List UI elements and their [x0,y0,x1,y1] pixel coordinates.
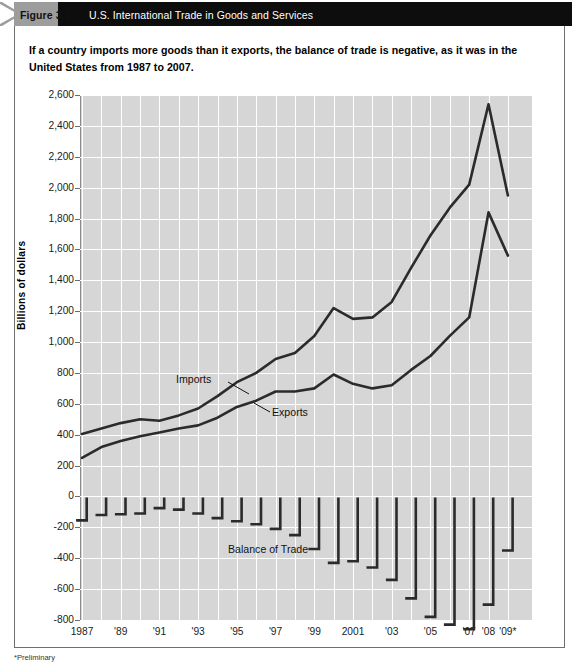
y-tick-label: 0 [28,490,74,502]
gridline-horizontal [80,249,532,250]
gridline-horizontal [80,373,532,374]
gridline-vertical [121,95,122,620]
chart-area: 2,6002,4002,2002,0001,8001,6001,4001,200… [0,0,572,664]
plot-background [80,95,532,620]
y-tick-mark [75,342,80,343]
gridline-vertical [508,95,509,620]
figure-page: Figure 3.2 U.S. International Trade in G… [0,0,572,664]
gridline-vertical [101,95,102,620]
gridline-vertical [218,95,219,620]
y-tick-mark [75,219,80,220]
y-tick-label: 200 [28,460,74,472]
gridline-vertical [82,95,83,620]
y-tick-mark [75,373,80,374]
gridline-horizontal [80,527,532,528]
y-tick-label: 1,800 [28,213,74,225]
gridline-vertical [334,95,335,620]
y-tick-label: -200 [28,521,74,533]
y-tick-mark [75,589,80,590]
gridline-horizontal [80,466,532,467]
y-tick-mark [75,466,80,467]
y-axis-line [80,95,81,620]
y-tick-mark [75,496,80,497]
gridline-horizontal [80,280,532,281]
y-tick-label: 2,000 [28,182,74,194]
y-tick-label: 600 [28,398,74,410]
gridline-vertical [237,95,238,620]
x-tick-label: '09* [485,625,531,638]
y-tick-label: 2,200 [28,151,74,163]
balance-of-trade-annotation: Balance of Trade [228,543,308,555]
y-tick-label: 400 [28,429,74,441]
y-tick-mark [75,95,80,96]
y-tick-mark [75,188,80,189]
y-tick-label: -400 [28,552,74,564]
gridline-vertical [276,95,277,620]
gridline-vertical [489,95,490,620]
gridline-horizontal [80,157,532,158]
gridline-vertical [159,95,160,620]
gridline-horizontal [80,126,532,127]
gridline-horizontal [80,496,532,497]
y-tick-mark [75,311,80,312]
gridline-vertical [469,95,470,620]
y-tick-mark [75,126,80,127]
gridline-horizontal [80,95,532,96]
y-tick-mark [75,157,80,158]
y-tick-mark [75,435,80,436]
y-tick-mark [75,620,80,621]
gridline-horizontal [80,435,532,436]
gridline-horizontal [80,219,532,220]
figure-footnote: *Preliminary [14,653,55,662]
gridline-vertical [430,95,431,620]
gridline-horizontal [80,589,532,590]
y-axis-label: Billions of dollars [16,210,30,330]
y-tick-label: -600 [28,583,74,595]
y-tick-label: 1,400 [28,274,74,286]
y-tick-label: 2,400 [28,120,74,132]
gridline-horizontal [80,342,532,343]
gridline-horizontal [80,620,532,621]
y-tick-mark [75,280,80,281]
gridline-vertical [353,95,354,620]
y-tick-label: 1,200 [28,305,74,317]
y-tick-mark [75,404,80,405]
gridline-horizontal [80,558,532,559]
gridline-horizontal [80,188,532,189]
y-tick-mark [75,558,80,559]
y-tick-label: 2,600 [28,89,74,101]
imports-annotation: Imports [176,373,211,385]
exports-annotation: Exports [272,406,308,418]
y-tick-label: 800 [28,367,74,379]
gridline-vertical [295,95,296,620]
gridline-vertical [198,95,199,620]
gridline-vertical [140,95,141,620]
y-tick-mark [75,527,80,528]
y-tick-label: 1,600 [28,243,74,255]
gridline-vertical [256,95,257,620]
gridline-vertical [411,95,412,620]
y-tick-label: 1,000 [28,336,74,348]
gridline-vertical [392,95,393,620]
gridline-vertical [314,95,315,620]
gridline-vertical [179,95,180,620]
gridline-horizontal [80,311,532,312]
gridline-vertical [372,95,373,620]
gridline-vertical [450,95,451,620]
y-tick-mark [75,249,80,250]
gridline-horizontal [80,404,532,405]
